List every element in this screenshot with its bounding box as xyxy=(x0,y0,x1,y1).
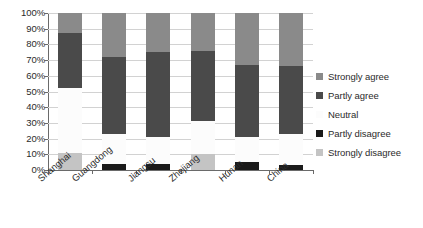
bar-segment xyxy=(102,13,126,57)
chart-legend: Strongly agreePartly agreeNeutralPartly … xyxy=(313,67,423,162)
bar-segment xyxy=(235,65,259,137)
y-axis: 0%10%20%30%40%50%60%70%80%90%100% xyxy=(0,13,45,170)
bar-jiangsu xyxy=(146,13,170,170)
gridline xyxy=(48,123,313,124)
gridline xyxy=(48,92,313,93)
gridline xyxy=(48,44,313,45)
legend-label: Strongly agree xyxy=(328,72,389,82)
gridline xyxy=(48,13,313,14)
legend-item: Strongly disagree xyxy=(313,143,423,162)
bar-segment xyxy=(102,57,126,134)
y-axis-tick-label: 80% xyxy=(3,39,45,49)
legend-item: Neutral xyxy=(313,105,423,124)
bar-segment xyxy=(235,13,259,65)
legend-label: Strongly disagree xyxy=(328,148,401,158)
x-axis-tick-mark xyxy=(92,170,93,174)
bar-segment xyxy=(191,51,215,122)
y-axis-tick-label: 10% xyxy=(3,149,45,159)
legend-item: Partly agree xyxy=(313,86,423,105)
bar-segment xyxy=(58,13,82,33)
plot-area xyxy=(48,13,313,170)
bar-segment xyxy=(102,164,126,170)
legend-swatch-icon xyxy=(316,149,323,156)
gridline xyxy=(48,139,313,140)
bar-china xyxy=(279,13,303,170)
bar-segment xyxy=(146,52,170,137)
bar-segment xyxy=(191,13,215,51)
gridline xyxy=(48,60,313,61)
bar-shanghai xyxy=(58,13,82,170)
stacked-bar-chart: 0%10%20%30%40%50%60%70%80%90%100% Shangh… xyxy=(0,0,423,228)
legend-swatch-icon xyxy=(316,73,323,80)
bar-segment xyxy=(279,66,303,134)
bar-hunan xyxy=(235,13,259,170)
legend-item: Partly disagree xyxy=(313,124,423,143)
legend-label: Partly disagree xyxy=(328,129,391,139)
legend-swatch-icon xyxy=(316,130,323,137)
legend-label: Neutral xyxy=(328,110,358,120)
legend-swatch-icon xyxy=(316,111,323,118)
gridline xyxy=(48,29,313,30)
y-axis-tick-label: 70% xyxy=(3,55,45,65)
bar-segment xyxy=(146,13,170,52)
y-axis-tick-label: 50% xyxy=(3,87,45,97)
legend-swatch-icon xyxy=(316,92,323,99)
gridline xyxy=(48,107,313,108)
y-axis-tick-label: 30% xyxy=(3,118,45,128)
bar-segment xyxy=(279,13,303,66)
bar-zhejiang xyxy=(191,13,215,170)
bar-segment xyxy=(58,33,82,88)
y-axis-tick-label: 100% xyxy=(3,8,45,18)
y-axis-tick-label: 60% xyxy=(3,71,45,81)
y-axis-tick-label: 40% xyxy=(3,102,45,112)
gridline xyxy=(48,154,313,155)
x-axis-tick-mark xyxy=(313,170,314,174)
y-axis-tick-label: 20% xyxy=(3,134,45,144)
bar-segment xyxy=(58,88,82,152)
legend-item: Strongly agree xyxy=(313,67,423,86)
legend-label: Partly agree xyxy=(328,91,379,101)
bar-segment xyxy=(191,121,215,154)
y-axis-tick-label: 90% xyxy=(3,24,45,34)
gridline xyxy=(48,76,313,77)
